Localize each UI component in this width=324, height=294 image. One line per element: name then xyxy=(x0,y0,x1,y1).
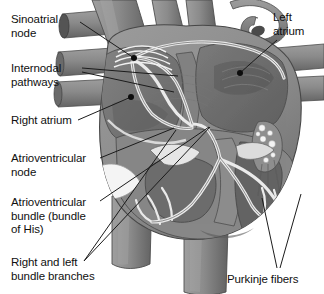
marker-right-atrium xyxy=(128,94,134,100)
heart-body-group xyxy=(98,25,301,240)
label-internodal-pathways: Internodal pathways xyxy=(11,62,107,89)
label-left-atrium: Left atrium xyxy=(273,11,321,38)
label-atrioventricular-bundle: Atrioventricular bundle (bundle of His) xyxy=(11,196,115,237)
marker-sinoatrial-node xyxy=(131,55,137,61)
marker-left-atrium xyxy=(237,70,243,76)
leader-purkinje-2 xyxy=(280,194,301,268)
label-sinoatrial-node: Sinoatrial node xyxy=(11,13,107,40)
label-bundle-branches: Right and left bundle branches xyxy=(11,256,123,283)
leader-purkinje-1 xyxy=(262,198,277,268)
descending-aorta-highlight xyxy=(190,233,202,292)
label-atrioventricular-node: Atrioventricular node xyxy=(11,152,121,179)
heart-illustration xyxy=(0,0,324,294)
label-purkinje-fibers: Purkinje fibers xyxy=(227,273,323,287)
label-right-atrium: Right atrium xyxy=(11,114,121,128)
heart-conduction-diagram: Sinoatrial node Internodal pathways Righ… xyxy=(0,0,324,294)
